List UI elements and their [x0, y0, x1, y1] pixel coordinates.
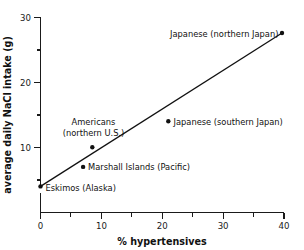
data-label-japanese-north: Japanese (northern Japan): [169, 29, 278, 39]
data-point-americans: [90, 145, 94, 149]
data-point-japanese-north: [280, 31, 284, 35]
y-tick-label-30: 30: [20, 13, 31, 23]
chart-canvas: 30 20 10 0 10 20 30 40 % hypertensives a…: [0, 0, 304, 250]
x-tick-label-30: 30: [218, 221, 229, 231]
data-label-marshall: Marshall Islands (Pacific): [88, 162, 190, 172]
y-tick-label-20: 20: [20, 78, 31, 88]
data-label-eskimos: Eskimos (Alaska): [46, 183, 116, 193]
y-tick-label-10: 10: [20, 143, 31, 153]
y-axis-title: average daily NaCl intake (g): [2, 36, 13, 194]
data-label-americans-line1: Americans: [72, 117, 116, 127]
data-label-japanese-south: Japanese (southern Japan): [173, 117, 283, 127]
data-point-marshall: [81, 165, 85, 169]
x-tick-label-10: 10: [96, 221, 107, 231]
x-tick-label-40: 40: [279, 221, 290, 231]
x-tick-label-0: 0: [38, 221, 43, 231]
data-label-americans-line2: (northern U.S.): [63, 128, 125, 138]
scatter-chart: 30 20 10 0 10 20 30 40 % hypertensives a…: [0, 0, 304, 250]
x-axis-title: % hypertensives: [117, 236, 207, 247]
x-tick-label-20: 20: [157, 221, 168, 231]
data-point-japanese-south: [166, 119, 170, 123]
data-point-eskimos: [38, 184, 42, 188]
